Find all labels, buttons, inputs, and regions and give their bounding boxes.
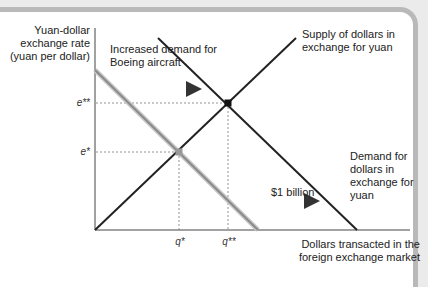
shift-annotation: Increased demand for Boeing aircraft bbox=[110, 43, 230, 69]
y-tick-e1: e* bbox=[66, 146, 90, 157]
supply-label: Supply of dollars in exchange for yuan bbox=[302, 28, 422, 54]
demand-label: Demand for dollars in exchange for yuan bbox=[350, 150, 425, 202]
billion-annotation: $1 billion bbox=[271, 186, 331, 199]
x-axis-label: Dollars transacted in the foreign exchan… bbox=[290, 238, 420, 264]
y-tick-e2: e** bbox=[66, 97, 90, 108]
x-tick-q2: q** bbox=[218, 236, 240, 247]
equilibrium-point-2 bbox=[225, 100, 232, 107]
y-axis-label: Yuan-dollar exchange rate (yuan per doll… bbox=[8, 24, 90, 63]
equilibrium-point-1 bbox=[176, 149, 183, 156]
x-tick-q1: q* bbox=[170, 236, 190, 247]
